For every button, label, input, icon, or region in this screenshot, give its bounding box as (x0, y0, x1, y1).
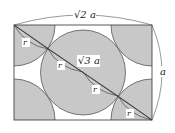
width-label: √2 a (74, 9, 96, 20)
height-label: a (160, 66, 166, 77)
diagonal-label: √3 a (78, 55, 100, 66)
geometry-diagram: √2 a a √3 a r r r r (0, 0, 175, 133)
